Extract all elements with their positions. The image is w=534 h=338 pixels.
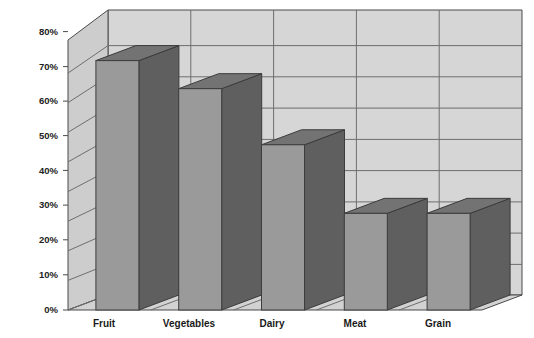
x-category-label-fruit: Fruit [93,318,116,329]
bar-side-face [139,46,179,310]
x-category-label-dairy: Dairy [259,318,284,329]
chart-canvas: 80% 70% 60% 50% 40% 30% 20% 10% 0% Fruit… [0,0,534,338]
bar-front-face [96,61,139,310]
bar-vegetables [179,74,262,310]
y-tick-label-0: 0% [44,304,58,315]
bar-grain [427,198,510,310]
y-axis-labels: 80% 70% 60% 50% 40% 30% 20% 10% 0% [39,26,59,315]
bar-chart: 80% 70% 60% 50% 40% 30% 20% 10% 0% Fruit… [0,0,534,338]
bar-side-face [470,198,510,310]
y-tick-label-70: 70% [39,61,59,72]
bar-meat [344,198,427,310]
bar-front-face [344,213,387,310]
x-category-label-vegetables: Vegetables [163,318,216,329]
y-tick-label-20: 20% [39,234,59,245]
bar-side-face [305,130,345,310]
y-tick-label-40: 40% [39,165,59,176]
y-tick-label-10: 10% [39,269,59,280]
bar-fruit [96,46,179,310]
bar-side-face [222,74,262,310]
x-category-label-grain: Grain [425,318,451,329]
x-category-label-meat: Meat [344,318,367,329]
bar-front-face [262,145,305,310]
bar-side-face [387,198,427,310]
bar-dairy [262,130,345,310]
bar-front-face [427,213,470,310]
y-tick-label-50: 50% [39,130,59,141]
y-tick-label-60: 60% [39,95,59,106]
bar-front-face [179,89,222,310]
y-tick-label-80: 80% [39,26,59,37]
y-tick-label-30: 30% [39,199,59,210]
